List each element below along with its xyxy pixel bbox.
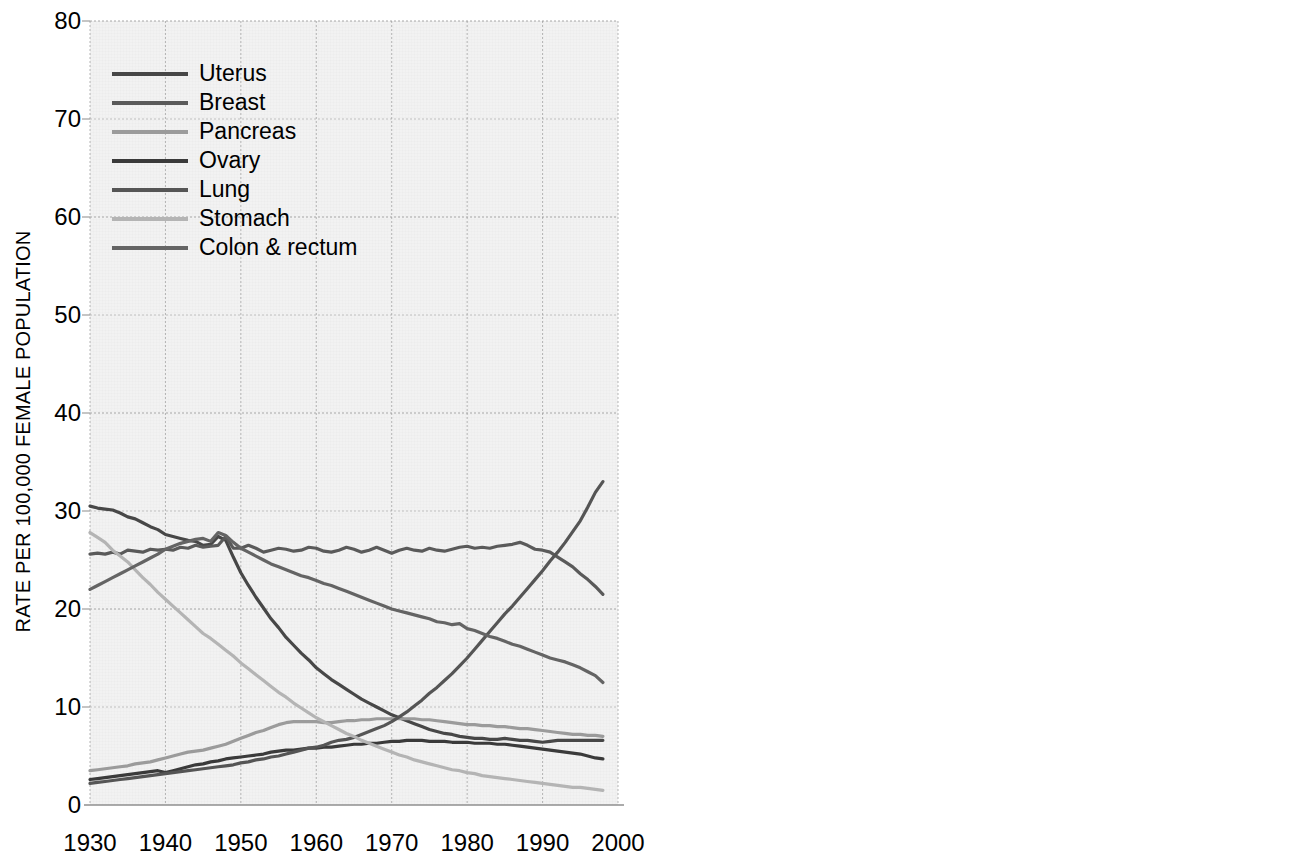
y-tick-mark [82, 707, 90, 708]
y-tick-mark [82, 511, 90, 512]
legend-color-swatch [112, 188, 188, 192]
right-chart-panel: RATE PER 100,000 MALE POPULATION 0102030… [650, 0, 1292, 863]
y-tick-mark [82, 119, 90, 120]
legend-item[interactable]: Uterus [112, 59, 358, 88]
legend-item-label: Breast [199, 91, 265, 114]
legend-color-swatch [112, 101, 188, 105]
x-tick-label: 2000 [591, 831, 644, 855]
legend: UterusBreastPancreasOvaryLungStomachColo… [112, 59, 358, 262]
series-line-breast [90, 536, 603, 594]
x-tick-label: 1950 [214, 831, 267, 855]
left-y-axis-label: RATE PER 100,000 FEMALE POPULATION [8, 0, 38, 863]
series-line-lung [90, 482, 603, 784]
x-tick-label: 1990 [516, 831, 569, 855]
legend-color-swatch [112, 246, 188, 250]
y-tick-mark [82, 315, 90, 316]
series-line-stomach [90, 533, 603, 791]
legend-color-swatch [112, 159, 188, 163]
legend-item-label: Colon & rectum [199, 236, 358, 259]
legend-color-swatch [112, 72, 188, 76]
left-plot-wrapper: 0102030405060708019301940195019601970198… [90, 0, 618, 863]
legend-item[interactable]: Ovary [112, 146, 358, 175]
y-tick-label: 0 [68, 793, 90, 817]
legend-item[interactable]: Pancreas [112, 117, 358, 146]
left-chart-panel: RATE PER 100,000 FEMALE POPULATION 01020… [0, 0, 650, 863]
legend-item-label: Ovary [199, 149, 260, 172]
figure-root: RATE PER 100,000 FEMALE POPULATION 01020… [0, 0, 1292, 863]
legend-item-label: Uterus [199, 62, 267, 85]
legend-item-label: Stomach [199, 207, 290, 230]
x-tick-label: 1980 [440, 831, 493, 855]
legend-color-swatch [112, 217, 188, 221]
series-line-colon-rectum [90, 533, 603, 683]
y-tick-mark [82, 217, 90, 218]
x-tick-label: 1970 [365, 831, 418, 855]
legend-item-label: Lung [199, 178, 250, 201]
x-tick-label: 1930 [63, 831, 116, 855]
legend-item-label: Pancreas [199, 120, 296, 143]
legend-item[interactable]: Breast [112, 88, 358, 117]
x-tick-label: 1940 [139, 831, 192, 855]
legend-item[interactable]: Colon & rectum [112, 233, 358, 262]
y-tick-mark [82, 609, 90, 610]
y-tick-mark [82, 413, 90, 414]
legend-color-swatch [112, 130, 188, 134]
legend-item[interactable]: Lung [112, 175, 358, 204]
y-tick-mark [82, 21, 90, 22]
x-tick-label: 1960 [290, 831, 343, 855]
legend-item[interactable]: Stomach [112, 204, 358, 233]
